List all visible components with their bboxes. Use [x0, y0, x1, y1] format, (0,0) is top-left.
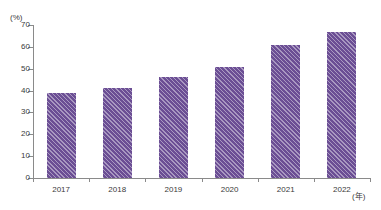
x-axis-tick-mark	[258, 178, 259, 182]
x-axis-label-2022: 2022	[333, 185, 351, 194]
x-axis-tick-mark	[89, 178, 90, 182]
bar-2019	[159, 77, 188, 178]
x-axis-tick-mark	[145, 178, 146, 182]
x-axis-tick-mark	[202, 178, 203, 182]
y-axis-tick-label: 20	[21, 129, 30, 138]
x-axis-label-2021: 2021	[277, 185, 295, 194]
bar-2020	[215, 67, 244, 178]
y-axis-tick-label: 10	[21, 151, 30, 160]
x-axis-label-2017: 2017	[52, 185, 70, 194]
x-axis-label-2018: 2018	[108, 185, 126, 194]
x-axis-tick-mark-end	[370, 178, 371, 182]
x-axis-unit-label: (年)	[352, 190, 365, 201]
bar-2022	[327, 32, 356, 178]
x-axis-label-2020: 2020	[221, 185, 239, 194]
plot-area: 010203040506070	[33, 25, 370, 178]
x-axis-label-2019: 2019	[165, 185, 183, 194]
y-axis-tick-label: 60	[21, 42, 30, 51]
bar-2017	[47, 93, 76, 178]
y-axis-tick-label: 40	[21, 86, 30, 95]
x-axis-tick-mark	[33, 178, 34, 182]
bar-chart: (%) (年) 010203040506070 2017201820192020…	[0, 0, 381, 210]
x-axis-tick-mark	[314, 178, 315, 182]
y-axis-tick-label: 30	[21, 107, 30, 116]
y-axis-tick-label: 70	[21, 20, 30, 29]
y-axis-tick-label: 50	[21, 64, 30, 73]
bar-2021	[271, 45, 300, 178]
y-axis-tick-label: 0	[26, 173, 30, 182]
bar-2018	[103, 88, 132, 178]
